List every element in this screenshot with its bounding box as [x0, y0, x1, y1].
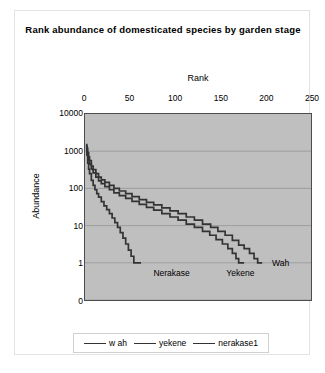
y-tick-label: 10000: [33, 107, 83, 119]
x-tick-label: 50: [110, 93, 150, 103]
x-axis-title: Rank: [84, 73, 312, 83]
legend-label: nerakase1: [218, 338, 258, 348]
plot-annotation-yekene: Yekene: [226, 268, 254, 278]
plot-annotation-nerakase: Nerakase: [153, 268, 189, 278]
y-tick-label: 100: [33, 182, 83, 194]
legend-label: w ah: [109, 338, 127, 348]
legend-label: yekene: [159, 338, 186, 348]
x-tick-label: 0: [64, 93, 104, 103]
legend-line-swatch: [193, 343, 215, 344]
series-line-nerakase1: [86, 146, 141, 263]
x-axis-tick-labels: 050100150200250: [84, 93, 312, 107]
series-line-yekene: [86, 147, 244, 263]
plot-area: WahNerakaseYekene: [84, 113, 312, 301]
y-tick-label: 1: [33, 257, 83, 269]
legend-entry: nerakase1: [193, 338, 258, 348]
y-tick-label: 0: [33, 295, 83, 307]
x-tick-label: 200: [246, 93, 286, 103]
legend-line-swatch: [134, 343, 156, 344]
legend-entry: w ah: [84, 338, 127, 348]
series-line-wah: [86, 145, 262, 263]
chart-frame: Rank abundance of domesticated species b…: [14, 10, 310, 355]
y-axis-tick-labels: 1000010001001010: [33, 113, 83, 313]
x-tick-label: 250: [292, 93, 325, 103]
chart-legend: w ahyekenenerakase1: [73, 333, 269, 353]
plot-lines: [85, 114, 311, 300]
legend-entry: yekene: [134, 338, 186, 348]
y-tick-label: 10: [33, 220, 83, 232]
x-tick-label: 100: [155, 93, 195, 103]
legend-line-swatch: [84, 343, 106, 344]
x-tick-label: 150: [201, 93, 241, 103]
plot-annotation-wah: Wah: [272, 258, 289, 268]
chart-title: Rank abundance of domesticated species b…: [25, 23, 301, 37]
y-tick-label: 1000: [33, 145, 83, 157]
